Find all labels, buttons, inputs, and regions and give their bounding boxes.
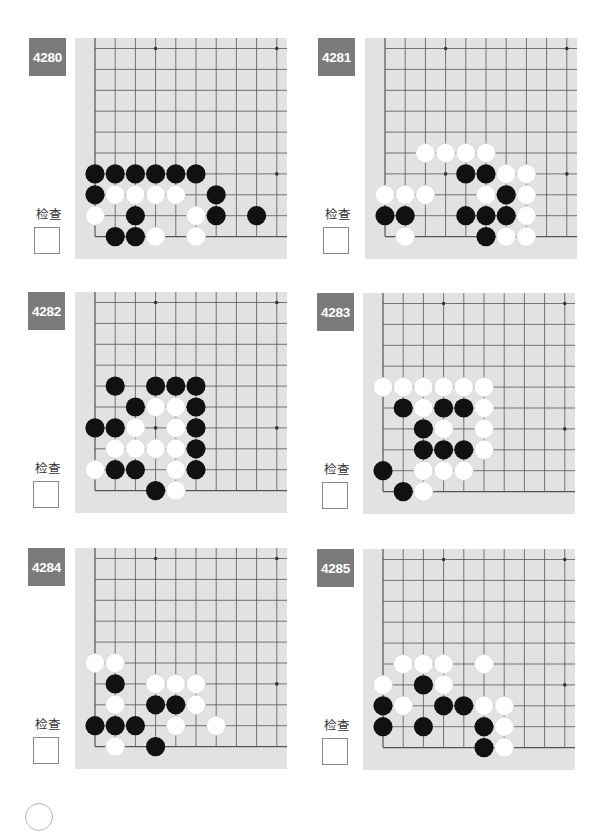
check-box[interactable] xyxy=(33,481,59,508)
check-label: 检查 xyxy=(323,207,353,222)
white-stone-icon xyxy=(166,716,185,735)
white-stone-icon xyxy=(434,675,453,694)
white-stone-icon xyxy=(166,418,185,437)
black-stone-icon xyxy=(434,440,453,459)
star-point-icon xyxy=(154,557,158,561)
white-stone-icon xyxy=(517,227,536,246)
white-stone-icon xyxy=(394,654,413,673)
black-stone-icon xyxy=(146,377,165,396)
black-stone-icon xyxy=(186,439,205,458)
black-stone-icon xyxy=(106,227,125,246)
check-label: 检查 xyxy=(322,462,352,477)
black-stone-icon xyxy=(207,206,226,225)
black-stone-icon xyxy=(85,418,104,437)
black-stone-icon xyxy=(474,738,493,757)
black-stone-icon xyxy=(146,695,165,714)
black-stone-icon xyxy=(394,482,413,501)
black-stone-icon xyxy=(207,185,226,204)
black-stone-icon xyxy=(375,206,394,225)
white-stone-icon xyxy=(106,695,125,714)
black-stone-icon xyxy=(85,164,104,183)
black-stone-icon xyxy=(126,716,145,735)
black-stone-icon xyxy=(394,398,413,417)
black-stone-icon xyxy=(414,675,433,694)
black-stone-icon xyxy=(126,206,145,225)
black-stone-icon xyxy=(373,461,392,480)
white-stone-icon xyxy=(517,164,536,183)
problem-panel-4283: 4283 检查 xyxy=(317,293,587,523)
white-stone-icon xyxy=(106,737,125,756)
problem-number-badge: 4283 xyxy=(317,293,354,331)
white-stone-icon xyxy=(517,185,536,204)
black-stone-icon xyxy=(146,737,165,756)
check-box[interactable] xyxy=(33,737,59,764)
white-stone-icon xyxy=(414,461,433,480)
go-board xyxy=(363,549,575,770)
star-point-icon xyxy=(154,47,158,51)
white-stone-icon xyxy=(474,654,493,673)
white-stone-icon xyxy=(126,439,145,458)
star-point-icon xyxy=(154,426,158,430)
black-stone-icon xyxy=(146,481,165,500)
problem-panel-4285: 4285 检查 xyxy=(317,549,587,779)
star-point-icon xyxy=(275,47,279,51)
black-stone-icon xyxy=(456,164,475,183)
check-label: 检查 xyxy=(322,718,352,733)
black-stone-icon xyxy=(85,185,104,204)
black-stone-icon xyxy=(166,695,185,714)
problem-number-badge: 4281 xyxy=(318,38,355,76)
check-box[interactable] xyxy=(322,738,348,765)
white-stone-icon xyxy=(474,696,493,715)
star-point-icon xyxy=(275,682,279,686)
black-stone-icon xyxy=(247,206,266,225)
black-stone-icon xyxy=(186,164,205,183)
star-point-icon xyxy=(275,426,279,430)
black-stone-icon xyxy=(454,440,473,459)
white-stone-icon xyxy=(436,143,455,162)
check-label: 检查 xyxy=(33,461,63,476)
check-box[interactable] xyxy=(323,227,349,254)
white-stone-icon xyxy=(85,206,104,225)
white-stone-icon xyxy=(186,227,205,246)
white-stone-icon xyxy=(146,439,165,458)
problem-number-badge: 4282 xyxy=(28,292,65,330)
star-point-icon xyxy=(563,427,567,431)
white-stone-icon xyxy=(106,653,125,672)
star-point-icon xyxy=(563,683,567,687)
white-stone-icon xyxy=(106,185,125,204)
go-board xyxy=(365,38,577,259)
black-stone-icon xyxy=(126,460,145,479)
white-stone-icon xyxy=(474,398,493,417)
board-grid xyxy=(365,38,577,259)
black-stone-icon xyxy=(474,717,493,736)
star-point-icon xyxy=(563,302,567,306)
black-stone-icon xyxy=(456,206,475,225)
black-stone-icon xyxy=(396,206,415,225)
black-stone-icon xyxy=(166,164,185,183)
white-stone-icon xyxy=(434,461,453,480)
problem-panel-4280: 4280 检查 xyxy=(29,38,299,268)
white-stone-icon xyxy=(414,482,433,501)
white-stone-icon xyxy=(434,378,453,397)
black-stone-icon xyxy=(476,164,495,183)
check-box[interactable] xyxy=(34,227,60,254)
black-stone-icon xyxy=(454,398,473,417)
white-stone-icon xyxy=(373,378,392,397)
problem-panel-4284: 4284 检查 xyxy=(28,548,298,778)
white-stone-icon xyxy=(146,185,165,204)
white-stone-icon xyxy=(106,439,125,458)
star-point-icon xyxy=(275,557,279,561)
white-stone-icon xyxy=(394,696,413,715)
board-grid xyxy=(75,38,287,259)
check-box[interactable] xyxy=(322,482,348,509)
black-stone-icon xyxy=(497,206,516,225)
go-board xyxy=(363,293,575,514)
white-stone-icon xyxy=(166,185,185,204)
black-stone-icon xyxy=(414,440,433,459)
black-stone-icon xyxy=(186,460,205,479)
white-stone-icon xyxy=(474,378,493,397)
page-number-circle xyxy=(25,803,53,831)
black-stone-icon xyxy=(476,206,495,225)
white-stone-icon xyxy=(166,674,185,693)
check-label: 检查 xyxy=(34,207,64,222)
